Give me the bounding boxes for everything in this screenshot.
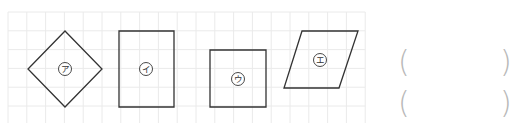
shape-label: ウ <box>234 74 243 84</box>
answer-1-field[interactable] <box>415 50 497 78</box>
answer-2-close-paren: ) <box>500 88 512 118</box>
answer-1-open-paren: ( <box>398 47 410 77</box>
shape-label: ア <box>61 64 70 74</box>
shape-square: ウ <box>210 50 266 107</box>
shape-label: イ <box>142 64 151 74</box>
answer-2-open-paren: ( <box>398 88 410 118</box>
shape-rectangle: イ <box>119 31 174 107</box>
shape-rhombus: ア <box>28 31 102 107</box>
answer-2-field[interactable] <box>415 91 497 119</box>
shape-label: エ <box>316 55 325 65</box>
answer-1-close-paren: ) <box>500 47 512 77</box>
